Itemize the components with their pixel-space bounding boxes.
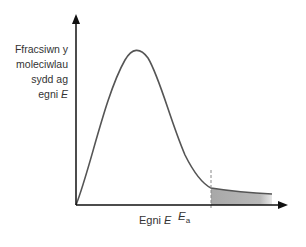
y-axis-arrow-icon (72, 14, 80, 24)
ea-label: Ea (178, 210, 190, 225)
distribution-curve (76, 50, 272, 205)
y-label-line-4: egni E (0, 87, 68, 102)
y-label-line-1: Ffracsiwn y (0, 42, 68, 57)
distribution-chart (0, 0, 306, 247)
shaded-area-above-ea (211, 188, 272, 205)
x-axis-label: Egni E (139, 214, 171, 226)
y-axis-label: Ffracsiwn y moleciwlau sydd ag egni E (0, 42, 68, 102)
y-label-line-2: moleciwlau (0, 57, 68, 72)
x-axis-arrow-icon (278, 201, 288, 209)
y-label-line-3: sydd ag (0, 72, 68, 87)
